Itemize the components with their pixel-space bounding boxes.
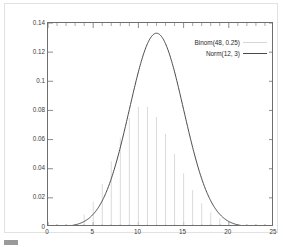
page-bottom-sliver	[0, 239, 283, 247]
x-tick-label: 15	[169, 228, 197, 236]
x-tick-label: 25	[259, 228, 283, 236]
legend-key-binom-icon	[243, 42, 267, 43]
binomial-impulse-lines	[84, 107, 229, 226]
y-tick-label: 0.08	[11, 106, 45, 113]
x-tick-label: 20	[214, 228, 242, 236]
x-tick-label: 5	[78, 228, 106, 236]
bottom-sliver-swatch	[4, 240, 18, 245]
y-tick-label: 0.14	[11, 19, 45, 26]
legend-label-binom: Binom(48, 0.25)	[195, 39, 243, 47]
y-tick-label: 0.06	[11, 135, 45, 142]
figure-frame: 00.020.040.060.080.10.120.14 0510152025 …	[4, 3, 278, 233]
chart-legend: Binom(48, 0.25) Norm(12, 3)	[155, 37, 267, 63]
legend-label-norm: Norm(12, 3)	[206, 50, 243, 58]
y-tick-label: 0.12	[11, 48, 45, 55]
y-axis-tick-labels: 00.020.040.060.080.10.120.14	[9, 22, 45, 226]
x-tick-label: 10	[123, 228, 151, 236]
legend-entry-binom: Binom(48, 0.25)	[155, 37, 267, 48]
legend-key-norm-icon	[243, 53, 267, 54]
x-tick-label: 0	[33, 228, 61, 236]
y-tick-label: 0.04	[11, 164, 45, 171]
y-tick-label: 0.02	[11, 193, 45, 200]
legend-entry-norm: Norm(12, 3)	[155, 48, 267, 59]
y-tick-label: 0.1	[11, 77, 45, 84]
